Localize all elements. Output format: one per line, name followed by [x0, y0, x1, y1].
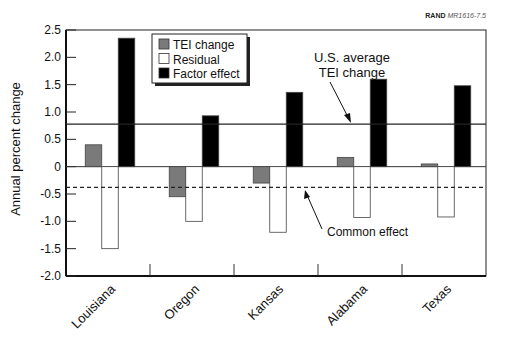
y-tick-label: 2.5: [44, 23, 61, 37]
x-tick-label: Oregon: [161, 282, 202, 323]
legend-swatch: [159, 68, 169, 78]
x-tick-label: Texas: [419, 281, 454, 316]
bar-residual: [270, 167, 287, 233]
us-average-annotation-line2: TEI change: [319, 65, 386, 80]
legend-swatch: [159, 54, 169, 64]
y-tick-label: -1.0: [40, 214, 61, 228]
legend-label: Factor effect: [173, 67, 240, 81]
y-axis-label: Annual percent change: [8, 82, 23, 216]
bar-tei-change: [253, 167, 270, 183]
y-tick-label: 2.0: [44, 50, 61, 64]
bar-tei-change: [421, 164, 438, 167]
common-effect-arrow: [307, 195, 322, 229]
y-tick-label: -2.0: [40, 269, 61, 283]
legend-label: Residual: [173, 53, 220, 67]
y-tick-label: -1.5: [40, 242, 61, 256]
arrow-head-icon: [344, 113, 351, 123]
bar-residual: [438, 167, 455, 217]
bar-tei-change: [169, 167, 186, 197]
x-tick-label: Alabama: [323, 281, 370, 328]
bar-residual: [354, 167, 371, 218]
bar-tei-change: [337, 157, 354, 166]
plot-area: 2.52.01.51.00.50-0.5-1.0-1.5-2.0Annual p…: [8, 23, 486, 331]
y-tick-label: 0: [54, 160, 61, 174]
bar-residual: [186, 167, 203, 222]
y-tick-label: 0.5: [44, 132, 61, 146]
y-tick-label: -0.5: [40, 187, 61, 201]
bar-factor-effect: [118, 38, 135, 166]
x-tick-label: Louisiana: [68, 281, 119, 332]
legend-label: TEI change: [173, 38, 235, 52]
us-average-annotation-line1: U.S. average: [314, 50, 390, 65]
bar-residual: [102, 167, 119, 249]
y-tick-label: 1.0: [44, 105, 61, 119]
x-tick-label: Kansas: [245, 281, 287, 323]
common-effect-annotation: Common effect: [327, 225, 409, 239]
us-average-arrow: [330, 82, 349, 119]
bar-tei-change: [85, 145, 102, 167]
y-tick-label: 1.5: [44, 78, 61, 92]
bar-factor-effect: [454, 86, 471, 167]
bar-chart: 2.52.01.51.00.50-0.5-1.0-1.5-2.0Annual p…: [0, 0, 508, 348]
bar-factor-effect: [370, 79, 387, 166]
legend-swatch: [159, 39, 169, 49]
arrow-head-icon: [304, 190, 310, 199]
bar-factor-effect: [286, 92, 303, 166]
